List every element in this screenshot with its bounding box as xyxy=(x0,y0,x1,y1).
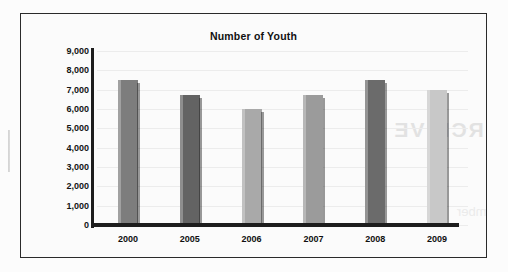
y-axis-line xyxy=(91,48,94,228)
y-tick-label: 3,000 xyxy=(66,163,89,172)
bar-shadow xyxy=(199,98,202,225)
y-tick-label: 7,000 xyxy=(66,86,89,95)
gridline xyxy=(97,206,468,207)
bar-highlight xyxy=(242,109,245,225)
chart-title: Number of Youth xyxy=(21,30,486,42)
y-tick-label: 9,000 xyxy=(66,47,89,56)
x-tick-label-2009: 2009 xyxy=(407,234,467,244)
y-tick-label: 8,000 xyxy=(66,66,89,75)
bar-2005[interactable] xyxy=(180,95,200,225)
x-tick-label-2006: 2006 xyxy=(222,234,282,244)
bar-shadow xyxy=(137,83,140,225)
gridline xyxy=(97,109,468,110)
bar-fill xyxy=(180,95,200,225)
bar-highlight xyxy=(303,95,306,225)
bar-highlight xyxy=(365,80,368,225)
y-tick-label: 0 xyxy=(84,221,89,230)
y-tick-label: 1,000 xyxy=(66,202,89,211)
y-axis-tick-labels: 9,0008,0007,0006,0005,0004,0003,0002,000… xyxy=(31,14,89,257)
bar-highlight xyxy=(180,95,183,225)
bar-shadow xyxy=(385,83,388,225)
scanned-page: ARCHIVE number Number of Youth 9,0008,00… xyxy=(0,0,508,272)
bar-fill xyxy=(118,80,138,225)
bar-shadow xyxy=(261,112,264,225)
bar-highlight xyxy=(118,80,121,225)
bar-2007[interactable] xyxy=(303,95,323,225)
bar-2006[interactable] xyxy=(242,109,262,225)
gridline xyxy=(97,148,468,149)
gridline xyxy=(97,167,468,168)
bar-highlight xyxy=(427,90,430,225)
gridline xyxy=(97,186,468,187)
x-tick-label-2005: 2005 xyxy=(160,234,220,244)
bar-fill xyxy=(303,95,323,225)
bar-2009[interactable] xyxy=(427,90,447,225)
gridline xyxy=(97,90,468,91)
bar-2008[interactable] xyxy=(365,80,385,225)
y-tick-label: 5,000 xyxy=(66,124,89,133)
x-tick-label-2007: 2007 xyxy=(283,234,343,244)
y-tick-label: 2,000 xyxy=(66,182,89,191)
bar-fill xyxy=(242,109,262,225)
bar-fill xyxy=(427,90,447,225)
bar-2000[interactable] xyxy=(118,80,138,225)
x-tick-label-2000: 2000 xyxy=(98,234,158,244)
y-tick-label: 4,000 xyxy=(66,144,89,153)
y-tick-label: 6,000 xyxy=(66,105,89,114)
page-edge-artifact xyxy=(8,130,10,172)
chart-frame: ARCHIVE number Number of Youth 9,0008,00… xyxy=(20,13,487,258)
bar-shadow xyxy=(447,93,450,225)
gridline xyxy=(97,128,468,129)
x-tick-label-2008: 2008 xyxy=(345,234,405,244)
bar-shadow xyxy=(323,98,326,225)
gridline xyxy=(97,51,468,52)
gridline xyxy=(97,70,468,71)
plot-area xyxy=(97,51,468,225)
bar-fill xyxy=(365,80,385,225)
x-axis-line xyxy=(91,223,459,227)
